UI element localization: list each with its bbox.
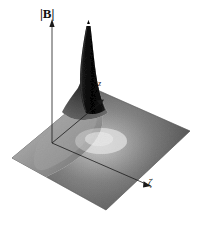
singular-peak-tip — [87, 20, 90, 24]
z-axis-label: z — [98, 80, 101, 88]
surface-plot-figure: |B| z ζ — [0, 0, 208, 225]
surface-highlight-core — [85, 132, 113, 146]
zeta-axis-label: ζ — [148, 178, 152, 188]
singular-peak — [62, 20, 108, 120]
vertical-axis-label: |B| — [40, 7, 54, 20]
surface-plot-canvas — [0, 0, 208, 225]
